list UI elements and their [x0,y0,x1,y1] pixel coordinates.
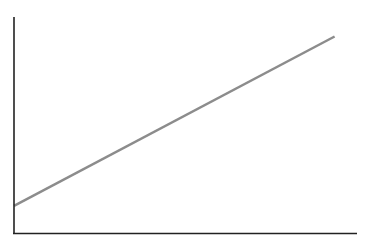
plot-area [14,37,335,206]
data-line [14,37,335,206]
line-chart [0,0,379,247]
